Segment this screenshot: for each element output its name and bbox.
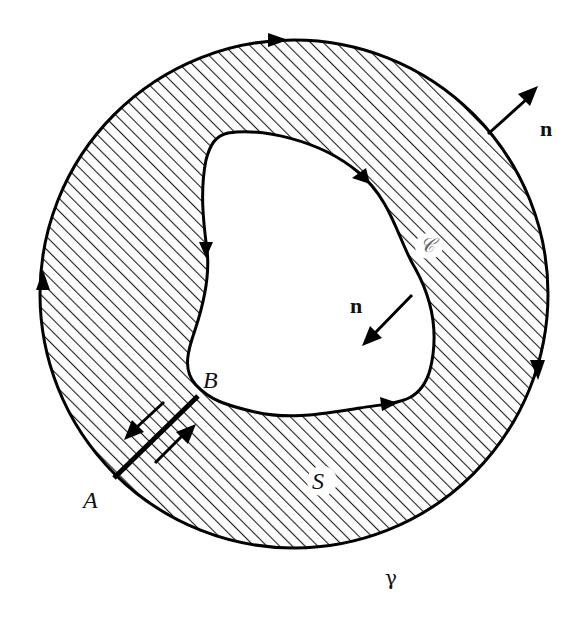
label-normal-outer: n [540,118,552,140]
normal-inner-shaft [374,295,412,334]
label-curve-gamma: γ [385,568,397,588]
label-curve-c: 𝒞 [420,235,435,255]
label-region-s: S [312,469,324,493]
label-point-b: B [203,368,218,392]
diagram-canvas: A B S 𝒞 γ n n [0,0,580,625]
region-diagram [0,0,580,625]
region-S [40,40,548,548]
normal-outer-shaft [488,98,528,134]
label-point-a: A [83,488,98,512]
label-normal-inner: n [350,295,362,317]
